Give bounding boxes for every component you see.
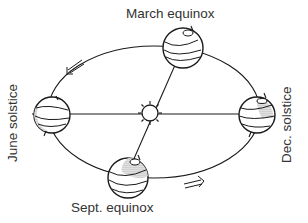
dec-earth-globe xyxy=(239,93,275,137)
june-solstice-label: June solstice xyxy=(6,84,20,162)
sept-equinox-label: Sept. equinox xyxy=(71,201,154,215)
march-earth-globe xyxy=(163,26,203,68)
orbit-diagram xyxy=(0,0,308,223)
orbit-direction-arrow-bottom xyxy=(184,176,204,188)
sun-icon xyxy=(138,101,162,125)
june-earth-globe xyxy=(34,96,70,136)
dec-solstice-label: Dec. solstice xyxy=(280,86,294,163)
sept-earth-globe xyxy=(108,155,148,198)
march-equinox-label: March equinox xyxy=(126,7,215,21)
